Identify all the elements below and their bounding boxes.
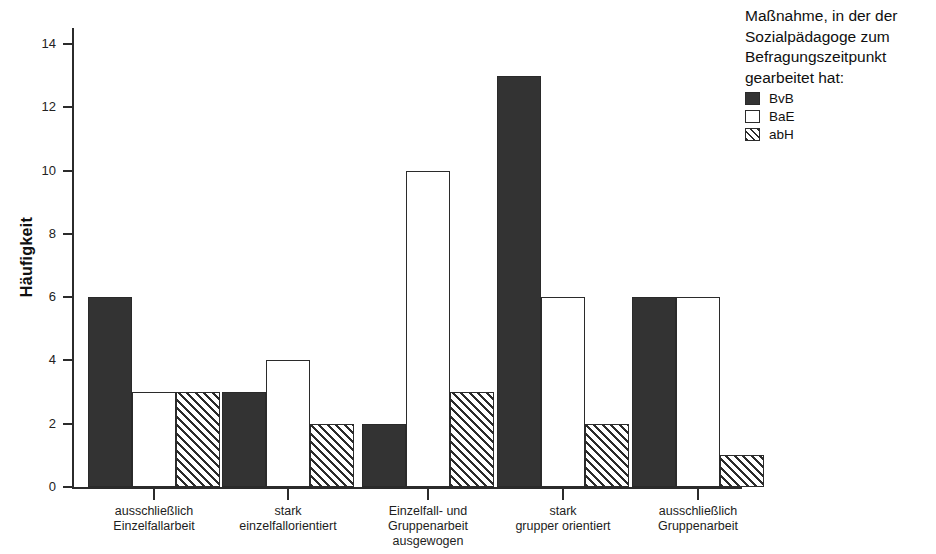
bar-bvb-group-5 — [632, 297, 676, 487]
y-tick-label-6: 6 — [12, 290, 56, 303]
legend-title: Maßnahme, in der der Sozialpädagoge zum … — [745, 6, 931, 88]
x-category-label-line: ausgewogen — [338, 534, 518, 549]
x-axis-line — [72, 487, 742, 489]
legend-row-abh: abH — [745, 127, 935, 142]
legend-label-bae: BaE — [769, 109, 795, 124]
bar-bae-group-2 — [266, 360, 310, 487]
bar-bae-group-1 — [132, 392, 176, 487]
x-tick-5 — [697, 489, 699, 500]
y-tick-label-14: 14 — [12, 37, 56, 50]
y-tick-label-10: 10 — [12, 164, 56, 177]
x-category-label-line: Gruppenarbeit — [608, 519, 788, 534]
bar-bvb-group-1 — [88, 297, 132, 487]
legend-label-abh: abH — [769, 127, 794, 142]
bar-abh-group-1 — [176, 392, 220, 487]
bar-bae-group-5 — [676, 297, 720, 487]
legend-label-bvb: BvB — [769, 91, 794, 106]
legend: Maßnahme, in der der Sozialpädagoge zum … — [745, 6, 935, 142]
legend-entries: BvBBaEabH — [745, 91, 935, 142]
legend-row-bae: BaE — [745, 109, 935, 124]
x-tick-4 — [562, 489, 564, 500]
bar-bvb-group-4 — [497, 76, 541, 487]
bar-bvb-group-3 — [362, 424, 406, 487]
y-tick-label-8: 8 — [12, 227, 56, 240]
bar-abh-group-3 — [450, 392, 494, 487]
x-tick-2 — [287, 489, 289, 500]
y-tick-label-12: 12 — [12, 100, 56, 113]
x-tick-1 — [153, 489, 155, 500]
bar-abh-group-4 — [585, 424, 629, 487]
y-axis-title: Häufigkeit — [18, 187, 36, 327]
diagonal-hatch-swatch — [745, 128, 760, 141]
bar-abh-group-5 — [720, 455, 764, 487]
x-category-label-line: ausschließlich — [608, 504, 788, 519]
x-category-label-5: ausschließlichGruppenarbeit — [608, 504, 788, 534]
legend-row-bvb: BvB — [745, 91, 935, 106]
bar-bae-group-4 — [541, 297, 585, 487]
y-tick-label-0: 0 — [12, 480, 56, 493]
x-tick-3 — [427, 489, 429, 500]
y-tick-label-2: 2 — [12, 417, 56, 430]
solid-dark-swatch — [745, 92, 760, 105]
white-outline-swatch — [745, 110, 760, 123]
bar-bvb-group-2 — [222, 392, 266, 487]
bar-bae-group-3 — [406, 171, 450, 487]
bar-abh-group-2 — [310, 424, 354, 487]
y-tick-label-4: 4 — [12, 353, 56, 366]
bars-layer — [72, 28, 742, 487]
